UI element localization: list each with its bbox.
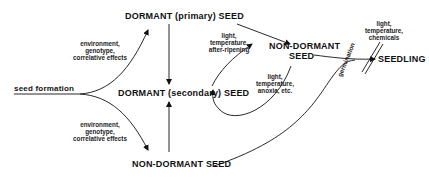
- edge-label-line: light,: [250, 73, 300, 80]
- edge-label-line: after-ripening: [201, 46, 257, 53]
- edge-label-lower-left: environment, genotype, correlative effec…: [68, 121, 132, 142]
- edge-label-nondormant-to-secondary: light, temperature, anoxia, etc.: [250, 73, 300, 94]
- node-non-dormant-top-line2: SEED: [289, 52, 314, 61]
- edge-label-line: correlative effects: [68, 135, 132, 142]
- edge-label-line: anoxia, etc.: [250, 87, 300, 94]
- node-dormant-secondary: DORMANT (secondary) SEED: [118, 89, 249, 98]
- edge-label-line: correlative effects: [68, 54, 132, 61]
- node-non-dormant-bottom: NON-DORMANT SEED: [132, 160, 231, 169]
- edge-label-line: genotype,: [68, 47, 132, 54]
- edge-label-line: environment,: [68, 121, 132, 128]
- edge-label-line: genotype,: [68, 128, 132, 135]
- edge-label-upper-left: environment, genotype, correlative effec…: [68, 40, 132, 61]
- node-seedling: SEEDLING: [378, 55, 426, 64]
- seed-dormancy-diagram: seed formation DORMANT (primary) SEED DO…: [0, 0, 429, 181]
- edge-label-line: light,: [201, 32, 257, 39]
- edge-label-line: light,: [360, 20, 408, 27]
- edge-label-line: temperature,: [360, 27, 408, 34]
- edge-label-primary-to-nondormant: light, temperature, after-ripening: [201, 32, 257, 53]
- edge-label-line: chemicals: [360, 34, 408, 41]
- node-non-dormant-top-line1: NON-DORMANT: [269, 42, 340, 51]
- edge-label-seedling-factors: light, temperature, chemicals: [360, 20, 408, 41]
- node-dormant-primary: DORMANT (primary) SEED: [125, 12, 244, 21]
- node-seed-formation: seed formation: [14, 85, 74, 93]
- edge-label-line: temperature,: [250, 80, 300, 87]
- edge-label-line: environment,: [68, 40, 132, 47]
- edge-label-line: temperature,: [201, 39, 257, 46]
